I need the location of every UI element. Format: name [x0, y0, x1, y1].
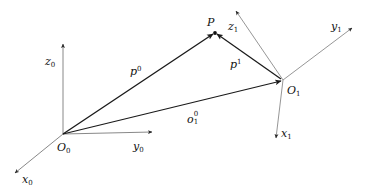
- axis-label-z0: z0: [45, 52, 55, 68]
- axis-line-z1: [236, 11, 283, 80]
- vector-label-o1-0: o01: [187, 110, 200, 126]
- axis-line-y0: [63, 132, 152, 134]
- vector-label-p1: p1: [230, 55, 242, 71]
- point-marker-P: [213, 31, 217, 35]
- axis-line-x0: [15, 134, 63, 173]
- vector-diagram-figure: x0 y0 z0 x1 y1 z1 p0 p1 o01 O0 O1 P: [0, 0, 370, 191]
- axis-label-x1: x1: [281, 124, 292, 140]
- axis-line-y1: [283, 28, 352, 80]
- point-label-O1: O1: [287, 81, 301, 97]
- vector-arrow-o1-0: [63, 81, 281, 134]
- axis-label-y1: y1: [331, 17, 342, 33]
- point-label-O0: O0: [57, 138, 71, 154]
- axis-label-y0: y0: [133, 137, 144, 153]
- vector-label-p0: p0: [130, 62, 142, 78]
- point-label-P: P: [207, 13, 214, 29]
- vector-arrow-p1: [217, 34, 281, 79]
- diagram-canvas: [0, 0, 370, 191]
- axis-label-x0: x0: [22, 170, 33, 186]
- axis-label-z1: z1: [228, 17, 238, 33]
